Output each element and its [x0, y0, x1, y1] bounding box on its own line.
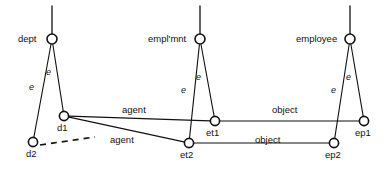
edge-label-dept-d1: e	[46, 68, 51, 77]
node-ep2[interactable]	[329, 138, 338, 147]
node-d2[interactable]	[28, 137, 37, 146]
edge-label-dept-d2: e	[29, 83, 34, 92]
node-et2[interactable]	[184, 138, 193, 147]
node-label-emplmnt: empl'mnt	[148, 34, 186, 44]
node-label-ep2: ep2	[325, 150, 341, 160]
dashed-edge-d2-continuation	[40, 137, 95, 145]
edge-dept-d2	[34, 45, 51, 137]
edge-employee-ep2	[335, 45, 349, 138]
edge-emplmnt-et2	[190, 45, 200, 138]
edge-label-employee-ep1: e	[346, 73, 351, 82]
node-et1[interactable]	[210, 116, 219, 125]
edge-label-employee-ep2: e	[331, 86, 336, 95]
node-employee[interactable]	[345, 34, 355, 44]
node-ep1[interactable]	[359, 116, 368, 125]
edge-label-d1-et2: agent	[110, 135, 134, 145]
edge-label-et2-ep2: object	[255, 135, 280, 145]
node-label-employee: employee	[296, 34, 337, 44]
edge-dept-d1	[53, 45, 63, 111]
node-dept[interactable]	[47, 34, 57, 44]
node-label-et2: et2	[180, 150, 193, 160]
node-label-et1: et1	[206, 128, 219, 138]
node-label-dept: dept	[18, 34, 37, 44]
node-label-d1: d1	[57, 123, 68, 133]
node-label-d2: d2	[26, 149, 37, 159]
node-d1[interactable]	[59, 111, 68, 120]
edge-employee-ep1	[351, 45, 363, 116]
edge-label-emplmnt-et2: e	[181, 86, 186, 95]
edge-emplmnt-et1	[201, 45, 214, 116]
diagram-canvas: deptempl'mntemployeed1d2et1et2ep1ep2eeee…	[0, 0, 390, 174]
edge-label-emplmnt-et1: e	[196, 73, 201, 82]
node-label-ep1: ep1	[355, 128, 371, 138]
edge-label-et1-ep1: object	[272, 105, 297, 115]
edge-label-d1-et1: agent	[122, 105, 146, 115]
edge-d1-et1	[69, 116, 210, 121]
node-emplmnt[interactable]	[195, 34, 205, 44]
